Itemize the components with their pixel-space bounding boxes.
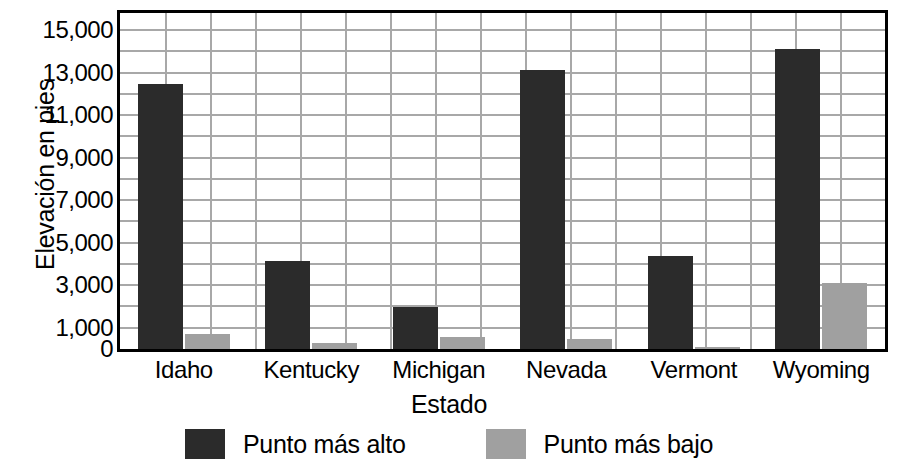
gridline-horizontal — [120, 178, 885, 180]
gridline-horizontal — [120, 93, 885, 95]
gridline-vertical — [750, 13, 752, 349]
gridline-vertical — [435, 13, 437, 349]
gridline-horizontal — [120, 135, 885, 137]
legend-label: Punto más bajo — [544, 430, 714, 459]
x-tick-label-wyoming: Wyoming — [731, 356, 898, 384]
bar-kentucky-high — [265, 261, 310, 349]
y-tick-label: 11,000 — [0, 103, 113, 127]
gridline-horizontal — [120, 114, 885, 116]
gridline-vertical — [480, 13, 482, 349]
bar-nevada-high — [520, 70, 565, 349]
plot-inner — [120, 13, 885, 349]
y-axis-tick-labels: 01,0003,0005,0007,0009,00011,00013,00015… — [0, 0, 113, 360]
gridline-horizontal — [120, 157, 885, 159]
gridline-horizontal — [120, 242, 885, 244]
legend-item-high: Punto más alto — [185, 429, 406, 459]
y-tick-label: 7,000 — [0, 188, 113, 212]
gridline-horizontal — [120, 220, 885, 222]
gridline-vertical — [390, 13, 392, 349]
bar-idaho-high — [138, 84, 183, 349]
bar-nevada-low — [567, 339, 612, 349]
bar-chart: Elevación en pies 01,0003,0005,0007,0009… — [0, 0, 898, 467]
plot-area — [117, 10, 888, 352]
bar-vermont-low — [695, 347, 740, 349]
gridline-horizontal — [120, 327, 885, 329]
y-tick-label: 5,000 — [0, 231, 113, 255]
x-axis-tick-labels: IdahoKentuckyMichiganNevadaVermontWyomin… — [117, 356, 888, 386]
gridline-vertical — [615, 13, 617, 349]
gridline-vertical — [210, 13, 212, 349]
y-tick-label: 9,000 — [0, 146, 113, 170]
chart-legend: Punto más altoPunto más bajo — [0, 424, 898, 464]
y-tick-label: 3,000 — [0, 273, 113, 297]
x-axis-title: Estado — [0, 390, 898, 419]
bar-michigan-high — [393, 307, 438, 349]
gridline-horizontal — [120, 72, 885, 74]
gridline-vertical — [345, 13, 347, 349]
gridline-horizontal — [120, 50, 885, 52]
y-tick-label: 13,000 — [0, 61, 113, 85]
bar-wyoming-low — [822, 283, 867, 349]
gridline-vertical — [570, 13, 572, 349]
gridline-horizontal — [120, 263, 885, 265]
legend-label: Punto más alto — [243, 430, 406, 459]
gridline-horizontal — [120, 199, 885, 201]
gray-swatch — [486, 429, 526, 459]
bar-kentucky-low — [312, 343, 357, 349]
bar-michigan-low — [440, 337, 485, 349]
bar-idaho-low — [185, 334, 230, 349]
bar-wyoming-high — [775, 49, 820, 349]
legend-item-low: Punto más bajo — [486, 429, 714, 459]
dark-swatch — [185, 429, 225, 459]
gridline-horizontal — [120, 29, 885, 31]
y-tick-label: 1,000 — [0, 316, 113, 340]
y-tick-label: 15,000 — [0, 18, 113, 42]
gridline-horizontal — [120, 305, 885, 307]
gridline-horizontal — [120, 284, 885, 286]
bar-vermont-high — [648, 256, 693, 349]
gridline-vertical — [255, 13, 257, 349]
gridline-vertical — [705, 13, 707, 349]
